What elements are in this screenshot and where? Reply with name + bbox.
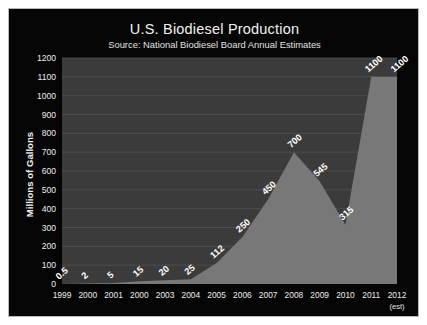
x-tick-label: 2011 <box>362 290 380 300</box>
x-tick-sublabel: (est) <box>389 302 405 311</box>
x-tick-label: 2001 <box>104 290 123 300</box>
x-tick-label: 2009 <box>310 290 329 300</box>
y-tick-label: 300 <box>42 223 57 233</box>
x-tick-label: 2003 <box>156 290 175 300</box>
y-tick-label: 1000 <box>37 91 56 101</box>
y-tick-label: 0 <box>51 279 56 289</box>
y-axis-tick-labels: 0100200300400500600700800900100011001200 <box>37 53 56 289</box>
x-tick-label: 2012 <box>388 290 407 300</box>
x-tick-label: 2006 <box>233 290 252 300</box>
area-chart-plot: 0100200300400500600700800900100011001200… <box>9 9 419 317</box>
y-tick-label: 600 <box>42 166 57 176</box>
x-axis-tick-labels: 1999200020012000200320042005200620072008… <box>53 290 407 311</box>
y-tick-label: 500 <box>42 185 57 195</box>
y-tick-label: 400 <box>42 204 57 214</box>
y-tick-label: 1200 <box>37 53 56 63</box>
x-tick-label: 2000 <box>78 290 97 300</box>
x-tick-label: 2008 <box>285 290 304 300</box>
x-tick-label: 2010 <box>336 290 355 300</box>
y-tick-label: 200 <box>42 241 57 251</box>
y-tick-label: 1100 <box>38 72 57 82</box>
x-tick-label: 2004 <box>182 290 201 300</box>
y-tick-label: 900 <box>42 110 57 120</box>
x-tick-label: 2000 <box>130 290 149 300</box>
x-tick-label: 2005 <box>207 290 226 300</box>
data-point-label: 1100 <box>389 54 411 75</box>
chart-figure: U.S. Biodiesel Production Source: Nation… <box>8 8 419 317</box>
y-tick-label: 100 <box>42 260 57 270</box>
x-tick-label: 1999 <box>53 290 72 300</box>
y-tick-label: 700 <box>42 147 57 157</box>
x-tick-label: 2007 <box>259 290 278 300</box>
y-tick-label: 800 <box>42 128 57 138</box>
